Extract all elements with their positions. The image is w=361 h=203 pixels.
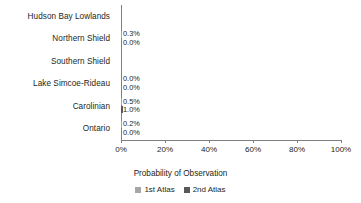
x-axis-tick-label: 60%: [245, 145, 261, 154]
category-label: Carolinian: [73, 95, 110, 118]
category-label: Hudson Bay Lowlands: [28, 5, 110, 28]
data-label: 0.0%: [123, 129, 140, 137]
x-axis-tick-label: 80%: [289, 145, 305, 154]
legend-item[interactable]: 1st Atlas: [135, 185, 174, 194]
category-axis-labels: Hudson Bay LowlandsNorthern ShieldSouthe…: [0, 5, 113, 140]
x-axis-tick-label: 40%: [201, 145, 217, 154]
value-axis-line: [121, 140, 341, 141]
data-label-group: 0.0%0.0%: [123, 73, 140, 96]
legend-label: 2nd Atlas: [193, 185, 226, 194]
x-axis-tick: [121, 140, 122, 143]
category-label: Ontario: [83, 118, 110, 141]
x-axis-title: Probability of Observation: [0, 169, 361, 178]
category-label: Lake Simcoe-Rideau: [33, 73, 110, 96]
bar-chart: Hudson Bay LowlandsNorthern ShieldSouthe…: [0, 0, 361, 203]
legend-swatch-icon: [135, 187, 141, 193]
x-axis-tick: [165, 140, 166, 143]
category-label: Northern Shield: [52, 28, 110, 51]
x-axis-tick-label: 20%: [157, 145, 173, 154]
x-axis-tick: [209, 140, 210, 143]
category-label: Southern Shield: [51, 50, 110, 73]
data-labels-container: 0.3%0.0%0.0%0.0%0.5%1.0%0.2%0.0%: [123, 5, 243, 140]
data-label: 0.0%: [123, 39, 140, 47]
data-label-group: 0.2%0.0%: [123, 118, 140, 141]
bar-first-atlas: [121, 98, 122, 105]
data-label-group: 0.3%0.0%: [123, 28, 140, 51]
x-axis-tick: [341, 140, 342, 143]
legend-label: 1st Atlas: [144, 185, 174, 194]
data-label: 0.0%: [123, 84, 140, 92]
x-axis-tick: [253, 140, 254, 143]
bar-first-atlas: [121, 31, 122, 38]
bar-first-atlas: [121, 121, 122, 128]
legend-item[interactable]: 2nd Atlas: [184, 185, 226, 194]
chart-legend: 1st Atlas2nd Atlas: [0, 185, 361, 194]
data-label-group: 0.5%1.0%: [123, 95, 140, 118]
data-label: 1.0%: [123, 106, 140, 114]
x-axis-tick-label: 0%: [115, 145, 127, 154]
x-axis-tick-label: 100%: [331, 145, 351, 154]
legend-swatch-icon: [184, 187, 190, 193]
x-axis-tick: [297, 140, 298, 143]
plot-area: Hudson Bay LowlandsNorthern ShieldSouthe…: [0, 0, 361, 145]
